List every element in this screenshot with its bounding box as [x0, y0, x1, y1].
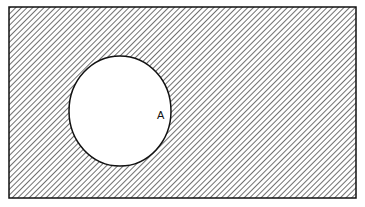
venn-svg: A [0, 0, 365, 207]
set-a-label: A [157, 109, 165, 121]
universe-rectangle [9, 7, 356, 198]
set-a-circle [69, 56, 171, 166]
venn-diagram: A [0, 0, 365, 207]
